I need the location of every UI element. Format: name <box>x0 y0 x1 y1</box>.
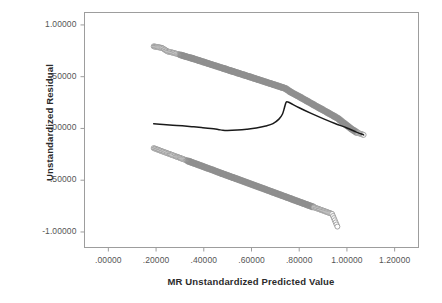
x-axis-title: MR Unstandardized Predicted Value <box>84 276 418 287</box>
y-tick-label: -.50000 <box>9 174 77 184</box>
y-axis-title: Unstandardized Residual <box>44 28 55 218</box>
y-tick-label: .00000 <box>9 122 77 132</box>
y-tick-label: .50000 <box>9 71 77 81</box>
y-tick-marks <box>81 25 85 232</box>
y-tick-label: 1.00000 <box>9 19 77 29</box>
x-tick-label: 1.20000 <box>365 255 425 265</box>
x-tick-marks <box>108 248 394 252</box>
y-tick-label: -1.00000 <box>9 226 77 236</box>
scatterplot-chart: 1.00000.50000.00000-.50000-1.00000 .0000… <box>0 0 442 303</box>
plot-frame <box>85 13 419 248</box>
